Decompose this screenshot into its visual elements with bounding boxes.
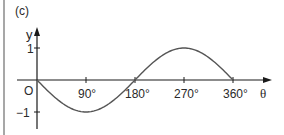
x-tick-label-90: 90°: [78, 88, 96, 100]
plot-svg: [0, 0, 284, 135]
graph-figure: (c) y 1 −1 O 90° 180° 270° 360° θ: [0, 0, 284, 135]
y-axis-label: y: [26, 28, 33, 41]
panel-label: (c): [15, 5, 29, 17]
origin-label: O: [24, 85, 33, 97]
x-tick-label-180: 180°: [125, 88, 150, 100]
x-axis-arrow-icon: [263, 77, 272, 83]
x-tick-label-360: 360°: [223, 88, 248, 100]
y-axis-arrow-icon: [34, 27, 40, 36]
x-tick-label-270: 270°: [174, 88, 199, 100]
x-axis-label: θ: [260, 87, 266, 100]
y-tick-label-1: 1: [27, 43, 34, 55]
y-tick-label-minus1: −1: [16, 107, 30, 119]
